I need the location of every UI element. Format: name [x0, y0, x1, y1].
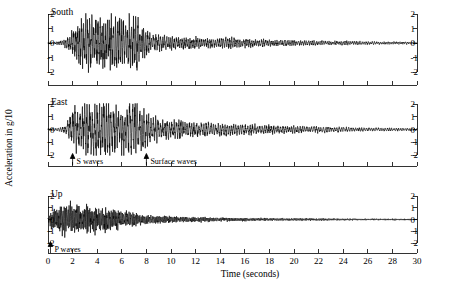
x-tick-label: 26 — [363, 256, 373, 266]
y-tick-label: 1 — [50, 203, 55, 213]
y-tick-label: -1 — [47, 53, 55, 63]
x-tick-label: 20 — [290, 256, 300, 266]
y-tick-label: -1 — [411, 226, 419, 236]
y-tick-label: -2 — [411, 67, 419, 77]
y-tick-label: -1 — [47, 137, 55, 147]
y-axis-title: Acceleration in g/10 — [4, 109, 14, 187]
waveform-trace-south — [48, 13, 417, 72]
x-tick-label: 30 — [413, 256, 423, 266]
x-tick-label: 16 — [240, 256, 250, 266]
annotation-s-waves: S waves — [70, 154, 103, 167]
y-tick-label: -1 — [47, 226, 55, 236]
x-tick-label: 24 — [339, 256, 349, 266]
y-tick-label: 2 — [411, 99, 416, 109]
x-tick-label: 2 — [70, 256, 75, 266]
y-tick-label: -2 — [411, 150, 419, 160]
x-axis-south — [48, 81, 417, 86]
x-tick-label: 22 — [314, 256, 323, 266]
seismogram-figure: South210-1-2210-1-2East210-1-2210-1-2S w… — [0, 0, 451, 291]
x-tick-label: 18 — [265, 256, 275, 266]
y-tick-label: 2 — [50, 191, 55, 201]
y-tick-label: -1 — [411, 53, 419, 63]
y-tick-label: 1 — [50, 112, 55, 122]
x-tick-label: 0 — [46, 256, 51, 266]
panel-south: South210-1-2210-1-2 — [47, 7, 418, 85]
x-axis-up: 024681012141618202224262830 — [46, 249, 422, 267]
y-tick-label: 1 — [411, 203, 416, 213]
annotation-label-surface-waves: Surface waves — [150, 157, 196, 166]
y-tick-label: 1 — [50, 24, 55, 34]
chart-canvas: South210-1-2210-1-2East210-1-2210-1-2S w… — [0, 0, 451, 291]
x-tick-label: 4 — [95, 256, 100, 266]
x-tick-label: 12 — [191, 256, 200, 266]
y-tick-label: -1 — [411, 137, 419, 147]
annotation-label-p-waves: P waves — [54, 245, 80, 254]
x-axis-east — [48, 162, 417, 167]
waveform-trace-up — [48, 201, 417, 238]
y-tick-label: -2 — [411, 238, 419, 248]
annotation-surface-waves: Surface waves — [144, 154, 197, 167]
waveform-trace-east — [48, 103, 417, 155]
x-axis-title: Time (seconds) — [221, 269, 280, 280]
y-tick-label: 2 — [50, 99, 55, 109]
x-tick-label: 14 — [216, 256, 226, 266]
panel-east: East210-1-2210-1-2S wavesSurface waves — [47, 97, 418, 166]
annotation-label-s-waves: S waves — [77, 157, 103, 166]
y-tick-label: 2 — [411, 9, 416, 19]
y-tick-label: 2 — [411, 191, 416, 201]
x-tick-label: 6 — [120, 256, 125, 266]
y-tick-label: -2 — [47, 150, 55, 160]
panel-up: Up210-1-2210-1-2024681012141618202224262… — [46, 189, 422, 266]
x-tick-label: 8 — [144, 256, 149, 266]
y-tick-label: 2 — [50, 9, 55, 19]
x-tick-label: 28 — [388, 256, 398, 266]
y-tick-label: 1 — [411, 24, 416, 34]
y-tick-label: 1 — [411, 112, 416, 122]
x-tick-label: 10 — [167, 256, 177, 266]
y-tick-label: -2 — [47, 67, 55, 77]
